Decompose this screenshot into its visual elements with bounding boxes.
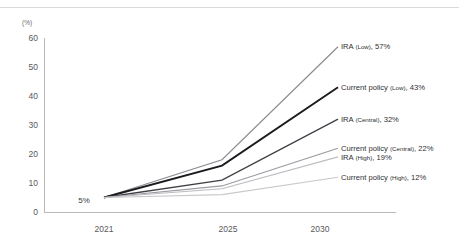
series-label-ira-central-value: , 32% [379, 115, 399, 124]
series-label-current-policy-high-qualifier: (High) [390, 174, 407, 181]
y-tick-20: 20 [29, 149, 39, 159]
y-tick-30: 30 [29, 120, 39, 130]
series-label-current-policy-low-value: , 43% [405, 83, 425, 92]
x-tick-2021: 2021 [95, 224, 114, 234]
series-label-current-policy-central: Current policy (Central), 22% [341, 144, 434, 153]
y-axis-unit-label: (%) [22, 19, 32, 27]
chart-page: (%) 60 50 40 30 20 10 0 2021 2025 2030 5… [0, 0, 459, 252]
y-tick-50: 50 [29, 62, 39, 72]
series-label-ira-central-qualifier: (Central) [355, 116, 379, 123]
series-line-ira-low [104, 47, 338, 198]
series-label-current-policy-low-qualifier: (Low) [390, 84, 405, 91]
x-tick-2025: 2025 [219, 224, 238, 234]
x-tick-2030: 2030 [311, 224, 330, 234]
series-label-current-policy-central-main: Current policy [341, 144, 388, 153]
series-label-ira-low-value: , 57% [371, 42, 391, 51]
y-tick-40: 40 [29, 91, 39, 101]
series-label-current-policy-central-value: , 22% [414, 144, 434, 153]
series-label-current-policy-high-main: Current policy [341, 173, 388, 182]
y-tick-60: 60 [29, 33, 39, 43]
series-label-ira-high-value: , 19% [372, 153, 392, 162]
series-line-current-policy-central [104, 148, 338, 197]
y-tick-0: 0 [33, 207, 38, 217]
series-label-current-policy-low: Current policy (Low), 43% [341, 83, 425, 92]
origin-value-label: 5% [78, 196, 90, 205]
line-chart: (%) 60 50 40 30 20 10 0 2021 2025 2030 5… [0, 0, 459, 252]
series-label-current-policy-high-value: , 12% [407, 173, 427, 182]
y-tick-10: 10 [29, 178, 39, 188]
series-label-ira-low-qualifier: (Low) [355, 43, 370, 50]
series-label-current-policy-high: Current policy (High), 12% [341, 173, 427, 182]
series-label-ira-central: IRA (Central), 32% [341, 115, 399, 124]
series-label-current-policy-low-main: Current policy [341, 83, 388, 92]
series-label-ira-high: IRA (High), 19% [341, 153, 392, 162]
series-label-current-policy-central-qualifier: (Central) [390, 145, 414, 152]
series-label-ira-low: IRA (Low), 57% [341, 42, 391, 51]
series-line-ira-high [104, 157, 338, 198]
series-label-ira-high-qualifier: (High) [355, 154, 372, 161]
series-line-current-policy-low [104, 87, 338, 197]
